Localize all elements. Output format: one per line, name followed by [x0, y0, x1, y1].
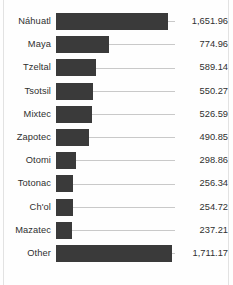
value-leader-line	[72, 230, 175, 231]
value-leader-line	[73, 184, 175, 185]
value-leader-line	[109, 44, 175, 45]
bar	[56, 83, 93, 100]
bar-category-label: Mixtec	[0, 103, 51, 126]
bar	[56, 245, 172, 262]
bar-rows: Náhuatl1,651.96Maya774.96Tzeltal589.14Ts…	[0, 10, 233, 265]
bar-value-label: 589.14	[172, 56, 228, 79]
bar-value-label: 256.34	[172, 172, 228, 195]
bar-value-label: 1,651.96	[172, 10, 228, 33]
bar-row: Other1,711.17	[0, 242, 233, 265]
bar-value-label: 526.59	[172, 103, 228, 126]
bar	[56, 36, 109, 53]
bar-value-label: 298.86	[172, 149, 228, 172]
bar-row: Otomi298.86	[0, 149, 233, 172]
value-leader-line	[73, 207, 175, 208]
bar	[56, 175, 73, 192]
bar	[56, 59, 96, 76]
value-leader-line	[93, 91, 175, 92]
bar-value-label: 1,711.17	[172, 242, 228, 265]
bar	[56, 152, 76, 169]
value-leader-line	[76, 160, 175, 161]
bar-row: Tsotsil550.27	[0, 80, 233, 103]
bar-category-label: Tzeltal	[0, 56, 51, 79]
bar	[56, 129, 89, 146]
bar	[56, 199, 73, 216]
value-leader-line	[96, 68, 175, 69]
value-leader-line	[92, 114, 175, 115]
bar	[56, 13, 168, 30]
bar	[56, 106, 92, 123]
bar	[56, 222, 72, 239]
bar-category-label: Náhuatl	[0, 10, 51, 33]
bar-value-label: 237.21	[172, 219, 228, 242]
bar-value-label: 490.85	[172, 126, 228, 149]
bar-category-label: Ch'ol	[0, 196, 51, 219]
bar-chart: Náhuatl1,651.96Maya774.96Tzeltal589.14Ts…	[0, 0, 233, 285]
bar-row: Ch'ol254.72	[0, 196, 233, 219]
bar-row: Náhuatl1,651.96	[0, 10, 233, 33]
bar-row: Mixtec526.59	[0, 103, 233, 126]
bar-row: Mazatec237.21	[0, 219, 233, 242]
bar-category-label: Zapotec	[0, 126, 51, 149]
bar-category-label: Otomi	[0, 149, 51, 172]
bar-category-label: Totonac	[0, 172, 51, 195]
bar-row: Tzeltal589.14	[0, 56, 233, 79]
bar-row: Maya774.96	[0, 33, 233, 56]
bar-category-label: Mazatec	[0, 219, 51, 242]
bar-value-label: 254.72	[172, 196, 228, 219]
bar-category-label: Other	[0, 242, 51, 265]
bar-value-label: 774.96	[172, 33, 228, 56]
value-leader-line	[89, 137, 175, 138]
bar-value-label: 550.27	[172, 80, 228, 103]
bar-category-label: Tsotsil	[0, 80, 51, 103]
bar-row: Zapotec490.85	[0, 126, 233, 149]
bar-row: Totonac256.34	[0, 172, 233, 195]
bar-category-label: Maya	[0, 33, 51, 56]
